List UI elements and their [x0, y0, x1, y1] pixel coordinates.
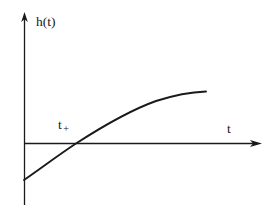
- y-axis-label: h(t): [36, 15, 56, 29]
- function-plot-figure: h(t) t t+: [0, 0, 274, 213]
- h-of-t-curve: [24, 92, 206, 181]
- root-annotation-subscript: +: [63, 123, 69, 134]
- x-axis-label: t: [227, 122, 231, 136]
- root-annotation-base: t: [58, 117, 62, 132]
- plot-canvas: [0, 0, 274, 213]
- root-annotation-t-plus: t+: [58, 118, 69, 134]
